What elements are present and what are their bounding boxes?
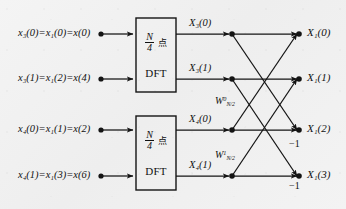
input-dot-2 (98, 76, 103, 81)
dft-block-top-expr: N 4 点 (136, 32, 176, 53)
fraction-n-over-4-top: N 4 (145, 32, 154, 53)
dft-block-bottom-label: DFT (136, 166, 176, 177)
node-dot-X3-1 (229, 76, 235, 82)
output-dot-3 (296, 127, 302, 133)
output-dot-1 (296, 31, 302, 37)
fraction-n-over-4-bottom: N 4 (145, 130, 154, 151)
dft-block-top-label: DFT (136, 68, 176, 79)
node-dot-X4-1 (229, 173, 235, 179)
dft-block-bottom-outline (136, 116, 176, 190)
dft-block-bottom-unit: 点 (158, 136, 167, 146)
twiddle-w0: W0N/2 (215, 96, 235, 107)
input-dot-4 (98, 173, 103, 178)
node-label-X4-1: X₄(1) (189, 160, 211, 171)
dft-block-bottom-expr: N 4 点 (136, 130, 176, 151)
input-label-3: x₄(0)=x₁(1)=x(2) (18, 124, 90, 135)
input-label-2: x₃(1)=x₁(2)=x(4) (18, 73, 90, 84)
node-label-X3-1: X₃(1) (189, 63, 211, 74)
gain-minus-one-lower: −1 (289, 181, 300, 191)
input-dot-3 (98, 127, 103, 132)
dft-block-top-outline (136, 18, 176, 92)
gain-minus-one-upper: −1 (289, 139, 300, 149)
input-dot-1 (98, 31, 103, 36)
output-label-X1-0: X₁(0) (307, 27, 330, 38)
node-dot-X4-0 (229, 127, 235, 133)
output-dot-4 (296, 173, 302, 179)
twiddle-w0-sub: N/2 (226, 101, 234, 107)
diagram-canvas: x₃(0)=x₁(0)=x(0) x₃(1)=x₁(2)=x(4) x₄(0)=… (0, 0, 346, 209)
input-label-1: x₃(0)=x₁(0)=x(0) (18, 28, 90, 39)
node-label-X3-0: X₃(0) (189, 18, 211, 29)
dft-block-top-unit: 点 (158, 38, 167, 48)
twiddle-w1: W1N/2 (215, 150, 235, 161)
output-dot-2 (296, 76, 302, 82)
node-dot-X3-0 (229, 31, 235, 37)
twiddle-w1-sub: N/2 (226, 155, 234, 161)
output-label-X1-1: X₁(1) (307, 72, 330, 83)
output-label-X1-2: X₁(2) (307, 123, 330, 134)
output-label-X1-3: X₁(3) (307, 169, 330, 180)
input-label-4: x₄(1)=x₁(3)=x(6) (18, 170, 90, 181)
node-label-X4-0: X₄(0) (189, 114, 211, 125)
